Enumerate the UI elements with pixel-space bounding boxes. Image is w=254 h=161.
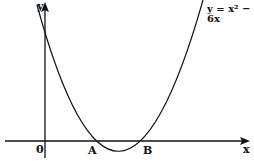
point-b-label: B [143, 145, 152, 156]
equation-label: y = x² − 6x [207, 4, 254, 24]
x-axis-label: x [243, 144, 250, 155]
parabola-diagram [0, 0, 254, 161]
point-a-label: A [88, 145, 97, 156]
y-axis-label: y [37, 1, 43, 12]
parabola-curve [37, 0, 203, 151]
origin-label: 0 [36, 144, 44, 155]
